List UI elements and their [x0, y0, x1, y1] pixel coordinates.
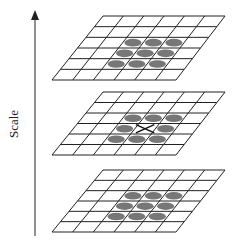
neighbor-sample-blob: [116, 49, 133, 57]
neighbor-sample-blob: [108, 135, 125, 143]
neighbor-sample-blob: [149, 213, 166, 220]
arrow-up-icon: [31, 10, 39, 20]
neighbor-sample-blob: [128, 213, 145, 220]
neighbor-sample-blob: [128, 135, 145, 143]
neighbor-sample-blob: [165, 114, 182, 122]
neighbor-sample-blob: [116, 202, 133, 209]
neighbor-sample-blob: [149, 60, 166, 68]
neighbor-sample-blob: [108, 213, 125, 220]
neighbor-sample-blob: [165, 39, 182, 47]
neighbor-sample-blob: [124, 114, 141, 122]
scale-space-diagram: [0, 0, 240, 248]
neighbor-sample-blob: [157, 125, 174, 133]
neighbor-sample-blob: [128, 60, 145, 68]
grid-upper-scale: [52, 16, 225, 80]
neighbor-sample-blob: [137, 49, 154, 57]
neighbor-sample-blob: [124, 192, 141, 199]
neighbor-sample-blob: [116, 125, 133, 133]
grid-lower-scale: [52, 170, 225, 232]
scale-axis-label: Scale: [6, 110, 22, 138]
neighbor-sample-blob: [149, 135, 166, 143]
scale-levels: [52, 16, 225, 232]
neighbor-sample-blob: [157, 49, 174, 57]
neighbor-sample-blob: [108, 60, 125, 68]
grid-current-scale: [52, 92, 225, 155]
neighbor-sample-blob: [165, 192, 182, 199]
neighbor-sample-blob: [145, 192, 162, 199]
neighbor-sample-blob: [145, 39, 162, 47]
neighbor-sample-blob: [137, 202, 154, 209]
scale-axis: [31, 10, 39, 236]
neighbor-sample-blob: [157, 202, 174, 209]
neighbor-sample-blob: [145, 114, 162, 122]
neighbor-sample-blob: [124, 39, 141, 47]
